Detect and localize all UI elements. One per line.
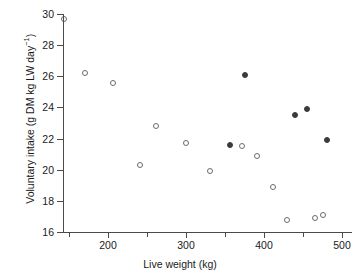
y-tick-30 xyxy=(57,14,63,15)
data-point-open xyxy=(270,184,276,190)
data-point-open xyxy=(183,140,189,146)
x-tick-minor-450 xyxy=(303,233,304,237)
data-point-open xyxy=(153,123,159,129)
data-point-open xyxy=(110,80,116,86)
y-tick-20 xyxy=(57,170,63,171)
x-axis-title: Live weight (kg) xyxy=(0,258,360,270)
x-tick-500 xyxy=(342,233,343,238)
y-tick-28 xyxy=(57,45,63,46)
data-point-open xyxy=(239,143,245,149)
data-point-open xyxy=(254,153,260,159)
x-tick-label-300: 300 xyxy=(166,240,206,251)
y-axis-title-exponent: −1 xyxy=(22,37,31,46)
plot-area xyxy=(63,14,351,231)
x-tick-minor-350 xyxy=(225,233,226,237)
data-point-open xyxy=(82,70,88,76)
y-tick-18 xyxy=(57,201,63,202)
x-tick-minor-250 xyxy=(147,233,148,237)
data-point-filled xyxy=(242,72,248,78)
x-tick-300 xyxy=(186,233,187,238)
y-axis-line xyxy=(63,14,64,232)
data-point-filled xyxy=(292,112,298,118)
x-tick-200 xyxy=(108,233,109,238)
data-points-layer xyxy=(0,0,360,279)
y-tick-16 xyxy=(57,232,63,233)
y-tick-24 xyxy=(57,107,63,108)
data-point-open xyxy=(312,215,318,221)
x-tick-label-500: 500 xyxy=(322,240,360,251)
x-tick-label-400: 400 xyxy=(244,240,284,251)
x-tick-minor-150 xyxy=(69,233,70,237)
data-point-open xyxy=(320,212,326,218)
y-axis-title: Voluntary intake (g DM kg LW day−1) xyxy=(22,4,36,234)
y-tick-22 xyxy=(57,139,63,140)
y-axis-title-text: Voluntary intake (g DM kg LW day xyxy=(24,46,36,204)
x-tick-label-200: 200 xyxy=(88,240,128,251)
data-point-filled xyxy=(227,142,233,148)
data-point-open xyxy=(284,217,290,223)
data-point-open xyxy=(137,162,143,168)
x-tick-400 xyxy=(264,233,265,238)
x-axis-line xyxy=(63,232,352,233)
data-point-open xyxy=(207,168,213,174)
scatter-chart-figure: 1618202224262830 200300400500 Live weigh… xyxy=(0,0,360,279)
y-axis-title-suffix: ) xyxy=(24,34,36,38)
data-point-filled xyxy=(304,106,310,112)
y-tick-26 xyxy=(57,76,63,77)
data-point-filled xyxy=(324,137,330,143)
